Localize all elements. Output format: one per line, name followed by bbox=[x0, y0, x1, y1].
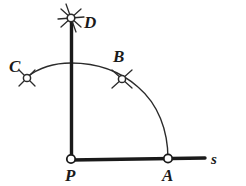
arc-group bbox=[27, 63, 168, 159]
point-label-A: A bbox=[161, 166, 173, 185]
point-marker-D bbox=[67, 14, 75, 22]
horizontal-ray-group bbox=[71, 158, 205, 160]
point-marker-A bbox=[164, 154, 172, 162]
main-arc-centered-at-P bbox=[27, 63, 168, 159]
point-label-C: C bbox=[9, 57, 21, 76]
construction-canvas: P A B C D s bbox=[0, 0, 246, 186]
point-markers-group bbox=[23, 14, 172, 163]
geometric-construction-diagram: P A B C D s bbox=[0, 0, 246, 186]
horizontal-ray-s bbox=[71, 158, 205, 160]
point-marker-P bbox=[67, 155, 75, 163]
point-marker-B bbox=[118, 75, 125, 82]
point-label-B: B bbox=[112, 47, 124, 66]
point-label-D: D bbox=[83, 13, 96, 32]
point-marker-C bbox=[23, 74, 30, 81]
point-label-P: P bbox=[64, 166, 76, 185]
ray-label-s: s bbox=[210, 151, 217, 167]
